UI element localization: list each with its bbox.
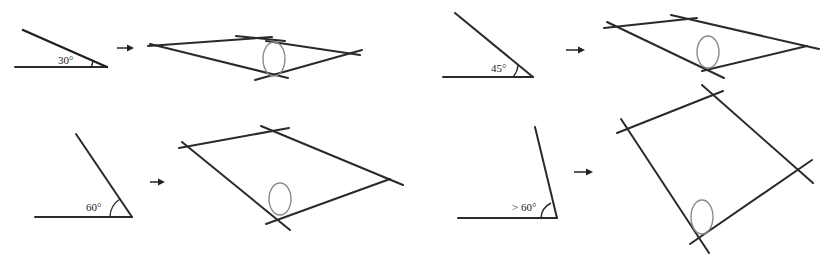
arrow-right-icon: [566, 47, 585, 54]
angle-label: 45°: [491, 62, 506, 74]
tangent-line: [266, 179, 390, 224]
ellipse-marker: [269, 183, 291, 215]
panel-60: 60°: [35, 126, 403, 230]
arrow-right-icon: [150, 179, 165, 186]
tangent-quadrilateral: [179, 126, 403, 230]
angle-label: 60°: [86, 201, 101, 213]
tangent-quadrilateral: [148, 36, 362, 80]
tangent-line: [671, 15, 819, 49]
panel-gt60: > 60°: [458, 85, 813, 253]
angle-figure: 60°: [35, 134, 132, 217]
tangent-line: [702, 85, 813, 183]
angle-arc: [110, 199, 120, 217]
ellipse-marker: [691, 200, 713, 234]
tangent-quadrilateral: [604, 15, 819, 78]
angle-figure: > 60°: [458, 127, 557, 218]
slanted-ray: [76, 134, 132, 217]
angle-tangent-diagram: 30°45°60°> 60°: [0, 0, 834, 265]
ellipse-marker: [697, 36, 719, 68]
tangent-line: [621, 119, 709, 253]
angle-figure: 30°: [15, 30, 107, 67]
ellipse-marker: [263, 42, 285, 76]
tangent-line: [261, 126, 403, 185]
tangent-line: [617, 91, 723, 133]
angle-figure: 45°: [443, 13, 533, 77]
slanted-ray: [535, 127, 557, 218]
angle-arc: [513, 64, 518, 77]
angle-label: 30°: [58, 54, 73, 66]
arrow-right-icon: [117, 45, 134, 52]
angle-label: > 60°: [512, 201, 536, 213]
angle-arc: [541, 203, 551, 218]
tangent-quadrilateral: [617, 85, 813, 253]
arrow-right-icon: [574, 169, 593, 176]
panel-30: 30°: [15, 30, 362, 80]
panel-45: 45°: [443, 13, 819, 78]
tangent-line: [266, 41, 360, 55]
